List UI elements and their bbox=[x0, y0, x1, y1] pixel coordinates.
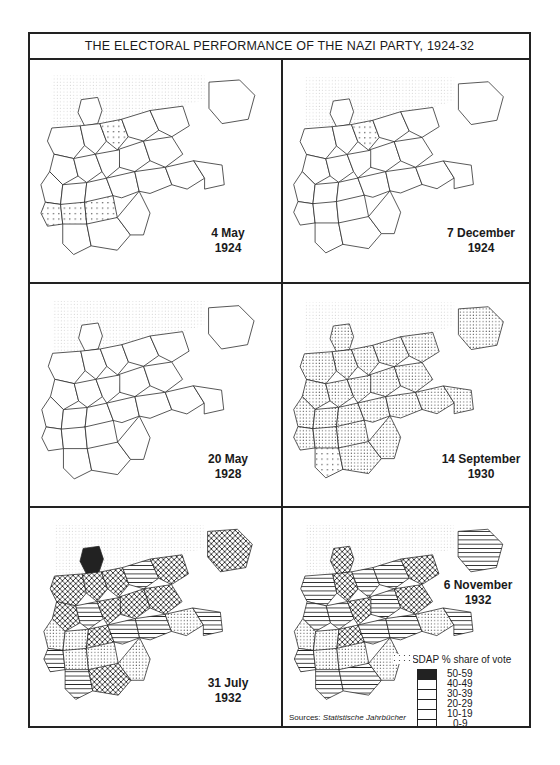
election-year: 1932 bbox=[198, 691, 258, 706]
map-panel-sep-1930: 14 September1930 bbox=[283, 284, 529, 508]
election-date-label: 7 December1924 bbox=[441, 226, 521, 256]
legend-item: 10-19 bbox=[417, 709, 523, 719]
election-date-label: 6 November1932 bbox=[433, 578, 523, 608]
legend-swatch-blank bbox=[417, 719, 437, 726]
electoral-district bbox=[135, 392, 172, 418]
electoral-district bbox=[316, 670, 344, 700]
electoral-district-east-prussia bbox=[208, 529, 253, 572]
election-date: 31 July bbox=[198, 676, 258, 691]
electoral-district bbox=[63, 224, 91, 255]
electoral-district bbox=[42, 427, 64, 451]
election-year: 1924 bbox=[198, 241, 258, 256]
election-date-label: 20 May1928 bbox=[198, 452, 258, 482]
electoral-district bbox=[44, 648, 65, 671]
electoral-district bbox=[300, 127, 336, 159]
legend-swatch-solid bbox=[417, 669, 437, 679]
electoral-district-east-prussia bbox=[209, 306, 254, 349]
electoral-district bbox=[63, 449, 91, 479]
legend-swatch-dense-dots bbox=[417, 699, 437, 709]
election-date: 6 November bbox=[433, 578, 523, 593]
source-prefix: Sources: bbox=[289, 713, 321, 722]
electoral-district bbox=[135, 614, 171, 640]
electoral-district-east-prussia bbox=[209, 80, 255, 124]
map-panel-nov-1932: NSDAP % share of vote 50-59 40-49 30-39 … bbox=[283, 508, 529, 726]
election-date-label: 14 September1930 bbox=[441, 452, 521, 482]
electoral-district bbox=[394, 585, 432, 615]
legend-item: 0-9 bbox=[417, 719, 523, 726]
electoral-district bbox=[386, 614, 422, 640]
legend-swatch-crosshatch bbox=[417, 679, 437, 689]
map-frame: THE ELECTORAL PERFORMANCE OF THE NAZI PA… bbox=[28, 32, 531, 728]
source-note: Sources: Statistische Jahrbücher bbox=[289, 713, 406, 722]
election-date: 4 May bbox=[198, 226, 258, 241]
electoral-district bbox=[386, 167, 422, 193]
legend-label: 0-9 bbox=[453, 719, 467, 726]
source-name: Statistische Jahrbücher bbox=[323, 713, 406, 722]
election-date-label: 31 July1932 bbox=[198, 676, 258, 706]
electoral-district bbox=[394, 362, 433, 392]
electoral-district bbox=[144, 362, 183, 392]
electoral-district bbox=[65, 670, 93, 700]
election-year: 1928 bbox=[198, 467, 258, 482]
electoral-district bbox=[386, 392, 422, 418]
election-date: 14 September bbox=[441, 452, 521, 467]
electoral-district bbox=[135, 167, 172, 193]
electoral-district bbox=[47, 126, 84, 159]
map-panel-jul-1932: 31 July1932 bbox=[30, 508, 283, 726]
electoral-district bbox=[48, 351, 85, 383]
map-panel-may-1928: 20 May1928 bbox=[30, 284, 283, 508]
electoral-district bbox=[294, 648, 315, 671]
electoral-district bbox=[294, 202, 315, 226]
electoral-district bbox=[50, 574, 86, 606]
electoral-district bbox=[144, 585, 182, 615]
legend-swatch-sparse-dots bbox=[417, 709, 437, 719]
electoral-district bbox=[301, 574, 337, 606]
election-year: 1930 bbox=[441, 467, 521, 482]
electoral-district bbox=[394, 137, 433, 167]
electoral-district-east-prussia bbox=[458, 307, 503, 350]
electoral-district bbox=[300, 352, 336, 384]
electoral-district bbox=[143, 137, 182, 168]
electoral-district bbox=[294, 427, 315, 451]
election-date: 7 December bbox=[441, 226, 521, 241]
electoral-district bbox=[315, 223, 343, 253]
legend-swatch-horizontal bbox=[417, 689, 437, 699]
page-title: THE ELECTORAL PERFORMANCE OF THE NAZI PA… bbox=[30, 34, 529, 60]
legend: NSDAP % share of vote 50-59 40-49 30-39 … bbox=[393, 654, 523, 726]
map-panel-dec-1924: 7 December1924 bbox=[283, 58, 529, 284]
electoral-district-east-prussia bbox=[458, 82, 503, 125]
election-date-label: 4 May1924 bbox=[198, 226, 258, 256]
electoral-district-east-prussia bbox=[458, 529, 503, 572]
electoral-district bbox=[41, 202, 63, 226]
election-year: 1932 bbox=[433, 593, 523, 608]
election-date: 20 May bbox=[198, 452, 258, 467]
map-panel-may-1924: 4 May1924 bbox=[30, 58, 283, 284]
electoral-district bbox=[315, 448, 343, 478]
election-year: 1924 bbox=[441, 241, 521, 256]
